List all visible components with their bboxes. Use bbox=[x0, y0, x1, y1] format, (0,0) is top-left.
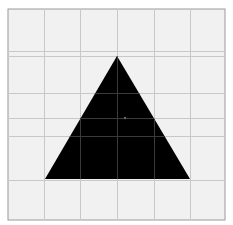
triangle-grid-diagram bbox=[0, 0, 233, 225]
diagram-canvas bbox=[0, 0, 233, 225]
center-dot bbox=[124, 117, 126, 119]
